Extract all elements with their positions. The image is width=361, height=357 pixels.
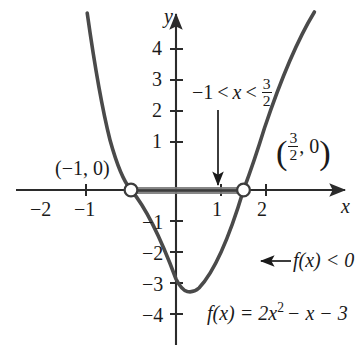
equation-right: − x − 3 [287,302,348,324]
y-tick-label-2: 2 [152,100,162,120]
open-point-left [125,184,138,197]
y-tick-label--4: −4 [142,305,163,325]
y-tick-label-4: 4 [152,38,162,58]
x-axis-label: x [341,196,350,216]
inequality-relation-1: < [217,81,228,103]
inequality-relation-2: < [245,81,256,103]
y-tick-label-3: 3 [152,69,162,89]
left-intercept-label: (−1, 0) [55,158,110,178]
y-tick-label--3: −3 [142,274,163,294]
equation-left: f(x) = 2x [207,302,277,324]
y-tick-label--2: −2 [142,243,163,263]
right-intercept-label: (32, 0) [276,130,331,166]
function-equation-label: f(x) = 2x2− x − 3 [207,301,348,323]
equation-exponent: 2 [277,300,284,315]
fraction-numerator: 3 [262,76,272,92]
right-paren: ) [319,138,330,166]
y-tick-label--1: −1 [142,212,163,232]
inequality-lower-bound: −1 [192,81,213,103]
x-tick-label--1: −1 [74,199,95,219]
y-axis-label: y [164,6,173,26]
fraction-denominator: 2 [288,146,298,163]
inequality-upper-bound-fraction: 32 [262,76,272,109]
open-point-right [237,184,250,197]
left-paren: ( [276,138,287,166]
x-tick-label-1: 1 [212,199,222,219]
x-tick-label-2: 2 [257,199,267,219]
right-intercept-fraction: 32 [288,130,298,163]
right-intercept-tail: , 0 [299,135,319,157]
inequality-annotation: −1<x<32 [192,76,273,109]
y-tick-label-1: 1 [152,131,162,151]
negative-region-label: f(x) < 0 [293,250,354,270]
inequality-variable: x [233,81,242,103]
x-tick-label--2: −2 [30,199,51,219]
fraction-numerator: 3 [288,130,298,146]
fraction-denominator: 2 [262,92,272,109]
